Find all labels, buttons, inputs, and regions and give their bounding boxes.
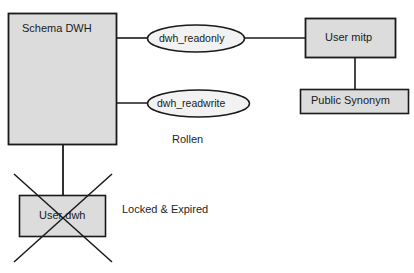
node-public-synonym[interactable]: [301, 90, 409, 114]
role-ellipse-dwh-readonly[interactable]: [148, 25, 245, 52]
node-user-mitp[interactable]: [306, 19, 396, 58]
diagram-canvas: Schema DWH User mitp Public Synonym User…: [0, 0, 414, 273]
node-user-dwh[interactable]: [20, 196, 106, 237]
diagram-shapes-layer: [0, 0, 414, 273]
node-schema-dwh[interactable]: [9, 14, 117, 145]
role-ellipse-dwh-readwrite[interactable]: [148, 90, 250, 117]
